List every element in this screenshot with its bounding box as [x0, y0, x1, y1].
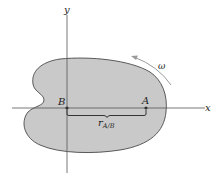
position-vector-label: rA/B: [98, 118, 114, 130]
y-axis-label: y: [64, 5, 70, 15]
point-a-label: A: [142, 96, 149, 106]
diagram-canvas: [0, 0, 222, 184]
omega-arrowhead-icon: [131, 56, 138, 61]
point-a-marker: [144, 106, 147, 109]
vector-subscript: A/B: [103, 122, 115, 130]
omega-label: ω: [158, 62, 165, 71]
point-b-marker: [65, 106, 68, 109]
x-axis-label: x: [205, 103, 211, 113]
rigid-body-diagram: y x B A ω rA/B: [0, 0, 222, 184]
point-b-label: B: [58, 97, 65, 107]
